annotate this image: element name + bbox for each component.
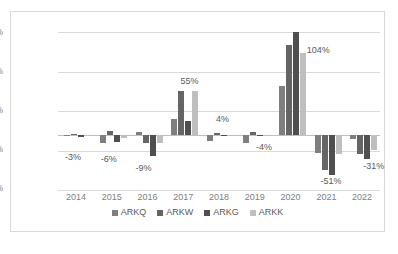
- bar-ARKQ-2014[interactable]: [64, 135, 70, 137]
- bar-ARKG-2021[interactable]: [329, 135, 335, 175]
- y-axis-tick-label: -20%: [0, 145, 3, 154]
- bar-ARKK-2019[interactable]: [264, 135, 270, 137]
- legend-item-arkw[interactable]: ARKW: [157, 208, 193, 217]
- x-axis-tick-2020: 2020: [274, 193, 308, 202]
- bar-ARKK-2016[interactable]: [157, 135, 163, 143]
- data-label-2017: 55%: [180, 77, 198, 86]
- x-axis-tick-2017: 2017: [166, 193, 200, 202]
- data-label-2022: -31%: [363, 162, 384, 171]
- bar-ARKK-2022[interactable]: [371, 135, 377, 151]
- bar-ARKK-2021[interactable]: [336, 135, 342, 154]
- bar-ARKQ-2015[interactable]: [100, 135, 106, 143]
- legend-label: ARKW: [166, 208, 193, 217]
- bar-ARKG-2016[interactable]: [150, 135, 156, 156]
- bar-ARKG-2017[interactable]: [185, 121, 191, 134]
- x-axis-tick-2016: 2016: [131, 193, 165, 202]
- plot-area: -3% -6% -9% 55%: [58, 32, 380, 190]
- legend-item-arkg[interactable]: ARKG: [204, 208, 239, 217]
- bar-ARKK-2015[interactable]: [121, 135, 127, 138]
- bar-group-2020: 104%: [273, 32, 309, 190]
- bar-ARKQ-2016[interactable]: [136, 132, 142, 134]
- bar-ARKW-2022[interactable]: [357, 135, 363, 154]
- bar-ARKW-2021[interactable]: [322, 135, 328, 171]
- data-label-2015: -6%: [101, 155, 117, 164]
- bar-ARKK-2017[interactable]: [192, 91, 198, 135]
- bar-ARKG-2018[interactable]: [221, 135, 227, 136]
- x-axis-tick-2021: 2021: [309, 193, 343, 202]
- bar-ARKW-2015[interactable]: [107, 131, 113, 135]
- bar-ARKQ-2019[interactable]: [243, 135, 249, 144]
- bar-group-2021: -51%: [309, 32, 345, 190]
- bar-ARKQ-2021[interactable]: [315, 135, 321, 153]
- bar-ARKW-2020[interactable]: [286, 45, 292, 134]
- y-axis-tick-label: 30%: [0, 106, 3, 115]
- bar-group-2018: 4%: [201, 32, 237, 190]
- x-axis-tick-2022: 2022: [345, 193, 379, 202]
- y-axis-tick-label: 80%: [0, 67, 3, 76]
- data-label-2014: -3%: [65, 153, 81, 162]
- bar-group-2017: 55%: [165, 32, 201, 190]
- bar-group-2014: -3%: [58, 32, 94, 190]
- data-label-2018: 4%: [216, 115, 229, 124]
- data-label-2019: -4%: [256, 143, 272, 152]
- legend-label: ARKK: [259, 208, 284, 217]
- bar-group-2022: -31%: [344, 32, 380, 190]
- legend-label: ARKQ: [121, 208, 147, 217]
- x-axis-tick-2014: 2014: [59, 193, 93, 202]
- legend-swatch-icon: [250, 210, 256, 216]
- bar-group-2016: -9%: [130, 32, 166, 190]
- x-axis-tick-2015: 2015: [95, 193, 129, 202]
- y-axis-tick-label: -70%: [0, 184, 3, 193]
- legend-swatch-icon: [204, 210, 210, 216]
- bar-group-2019: -4%: [237, 32, 273, 190]
- legend-item-arkk[interactable]: ARKK: [250, 208, 284, 217]
- bar-ARKK-2014[interactable]: [85, 135, 91, 137]
- x-axis-tick-2019: 2019: [238, 193, 272, 202]
- bar-ARKQ-2018[interactable]: [207, 135, 213, 141]
- bar-ARKG-2020[interactable]: [293, 32, 299, 135]
- bar-ARKK-2020[interactable]: [300, 53, 306, 135]
- legend-swatch-icon: [112, 210, 118, 216]
- legend-label: ARKG: [213, 208, 239, 217]
- bar-ARKG-2014[interactable]: [78, 135, 84, 137]
- legend-swatch-icon: [157, 210, 163, 216]
- bar-ARKW-2019[interactable]: [250, 132, 256, 134]
- chart-legend: ARKQ ARKW ARKG ARKK: [11, 208, 384, 217]
- bar-ARKK-2018[interactable]: [228, 135, 234, 136]
- y-axis-tick-label: 130%: [0, 28, 3, 37]
- bar-ARKW-2014[interactable]: [71, 134, 77, 135]
- bar-ARKG-2019[interactable]: [257, 135, 263, 136]
- legend-item-arkq[interactable]: ARKQ: [112, 208, 147, 217]
- bar-ARKG-2022[interactable]: [364, 135, 370, 160]
- bar-group-2015: -6%: [94, 32, 130, 190]
- bar-ARKQ-2022[interactable]: [350, 135, 356, 139]
- bar-ARKW-2017[interactable]: [178, 91, 184, 135]
- bar-ARKW-2018[interactable]: [214, 133, 220, 135]
- gridline-minus70: [58, 190, 380, 191]
- bar-ARKQ-2017[interactable]: [171, 119, 177, 135]
- x-axis-tick-2018: 2018: [202, 193, 236, 202]
- bar-ARKQ-2020[interactable]: [279, 86, 285, 135]
- data-label-2021: -51%: [321, 177, 342, 186]
- chart-container: 130% 80% 30% -20% -70% -3% -6%: [10, 11, 385, 232]
- bar-ARKG-2015[interactable]: [114, 135, 120, 142]
- data-label-2016: -9%: [136, 164, 152, 173]
- bar-ARKW-2016[interactable]: [143, 135, 149, 143]
